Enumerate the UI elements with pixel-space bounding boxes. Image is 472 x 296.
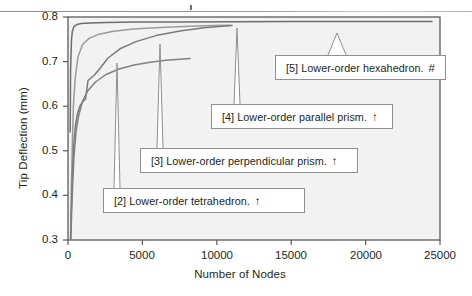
callout-perpendicular-prism-mark: ↑ [332,155,338,167]
x-tick-label-0: 0 [48,249,88,261]
x-tick-label-1: 5000 [112,249,172,261]
x-axis-title: Number of Nodes [160,268,320,280]
y-tick-label-0: 0.8 [24,10,58,22]
y-axis-title: Tip Deflection (mm) [17,73,29,203]
y-tick-label-5: 0.3 [24,233,58,245]
callout-perpendicular-prism-label: [3] Lower-order perpendicular prism. [151,155,327,167]
callout-tetrahedron-label: [2] Lower-order tetrahedron. [114,195,250,207]
y-tick-label-2: 0.6 [24,99,58,111]
callout-tetrahedron-mark: ↑ [255,195,261,207]
y-axis-ticks [63,17,68,240]
x-tick-label-5: 25000 [409,249,471,261]
callout-hexahedron[interactable]: [5] Lower-order hexahedron. # [275,55,446,80]
callout-parallel-prism[interactable]: [4] Lower-order parallel prism. ↑ [211,104,393,129]
callout-tetrahedron[interactable]: [2] Lower-order tetrahedron. ↑ [103,188,305,213]
callout-hexahedron-mark: # [429,62,435,74]
callout-hexahedron-label: [5] Lower-order hexahedron. [286,62,424,74]
x-tick-label-2: 10000 [186,249,248,261]
figure-container: 0.8 0.7 0.6 0.5 0.4 0.3 0 5000 10000 150… [0,0,472,296]
x-axis-ticks [68,240,440,245]
callout-parallel-prism-label: [4] Lower-order parallel prism. [222,111,367,123]
x-tick-label-4: 20000 [335,249,397,261]
callout-parallel-prism-mark: ↑ [372,111,378,123]
callout-perpendicular-prism[interactable]: [3] Lower-order perpendicular prism. ↑ [140,148,358,173]
y-tick-label-3: 0.5 [24,144,58,156]
y-tick-label-1: 0.7 [24,55,58,67]
y-tick-label-4: 0.4 [24,188,58,200]
x-tick-label-3: 15000 [260,249,322,261]
